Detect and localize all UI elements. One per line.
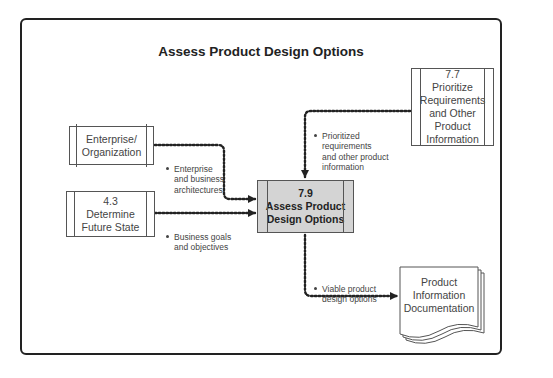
- edge-label-viable-options: Viable product design options: [314, 273, 377, 305]
- node-assess-product-design-options[interactable]: 7.9 Assess Product Design Options: [257, 180, 354, 233]
- node-enterprise-organization[interactable]: Enterprise/ Organization: [69, 126, 154, 165]
- node-determine-future-state[interactable]: 4.3 Determine Future State: [66, 191, 155, 237]
- node-prioritize-requirements[interactable]: 7.7 Prioritize Requirements and Other Pr…: [411, 68, 494, 146]
- node-label: Determine Future State: [82, 208, 140, 234]
- node-label: Product Information Documentation: [404, 276, 475, 315]
- node-id: 7.7: [445, 68, 460, 81]
- node-label: Prioritize Requirements and Other Produc…: [420, 81, 485, 146]
- edge-label-enterprise: Enterprise and business architectures: [166, 153, 224, 195]
- node-product-information-documentation[interactable]: Product Information Documentation: [400, 270, 478, 320]
- bullet-icon: [314, 287, 317, 290]
- bullet-icon: [166, 235, 169, 238]
- bullet-icon: [314, 134, 317, 137]
- node-label: Assess Product Design Options: [266, 200, 345, 226]
- edge-label-future-state: Business goals and objectives: [166, 221, 231, 253]
- edge-label-prioritize: Prioritized requirements and other produ…: [314, 120, 389, 173]
- node-label: Enterprise/ Organization: [82, 133, 142, 159]
- bullet-icon: [166, 167, 169, 170]
- node-id: 7.9: [298, 187, 313, 200]
- node-id: 4.3: [103, 195, 118, 208]
